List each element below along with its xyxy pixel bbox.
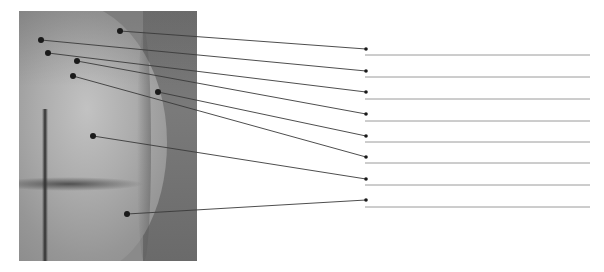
- label-5: [155, 89, 590, 142]
- point-marker: [90, 133, 96, 139]
- point-marker: [45, 50, 51, 56]
- label-3: [45, 50, 590, 99]
- leader-lines-layer: [0, 0, 604, 272]
- label-8: [124, 198, 590, 217]
- label-6: [70, 73, 590, 163]
- target-marker: [364, 90, 368, 94]
- point-marker: [38, 37, 44, 43]
- target-marker: [364, 155, 368, 159]
- leader-line: [120, 31, 366, 49]
- label-7: [90, 133, 590, 185]
- point-marker: [124, 211, 130, 217]
- point-marker: [74, 58, 80, 64]
- target-marker: [364, 134, 368, 138]
- labeling-diagram: [0, 0, 604, 272]
- target-marker: [364, 198, 368, 202]
- target-marker: [364, 112, 368, 116]
- point-marker: [70, 73, 76, 79]
- point-marker: [155, 89, 161, 95]
- leader-line: [73, 76, 366, 157]
- leader-line: [93, 136, 366, 179]
- target-marker: [364, 177, 368, 181]
- leader-line: [41, 40, 366, 71]
- label-1: [117, 28, 590, 55]
- target-marker: [364, 69, 368, 73]
- leader-line: [127, 200, 366, 214]
- label-2: [38, 37, 590, 77]
- target-marker: [364, 47, 368, 51]
- point-marker: [117, 28, 123, 34]
- leader-line: [158, 92, 366, 136]
- leader-line: [77, 61, 366, 114]
- leader-line: [48, 53, 366, 92]
